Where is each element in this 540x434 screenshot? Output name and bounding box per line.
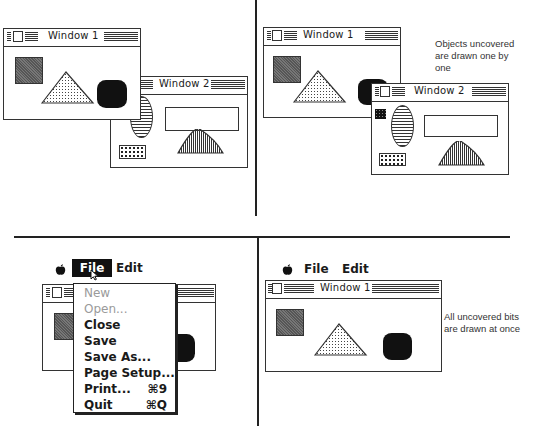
title-bar-stripes [141, 80, 153, 90]
title-bar-stripes [284, 31, 297, 41]
window-2[interactable]: Window 2 [371, 83, 509, 175]
empty-rectangle-shape [424, 115, 498, 137]
title-bar-stripes [25, 32, 38, 42]
apple-menu-icon[interactable] [55, 264, 66, 276]
close-box[interactable] [272, 30, 282, 41]
window-title: Window 2 [410, 85, 469, 96]
menu-item-open[interactable]: Open... [74, 302, 175, 318]
title-bar[interactable]: Window 2 [372, 84, 508, 102]
dotted-triangle-shape [293, 70, 347, 104]
title-bar-stripes [365, 31, 398, 41]
title-bar-stripes [375, 87, 379, 97]
title-bar-stripes [392, 87, 405, 97]
dotted-rectangle-shape [119, 145, 146, 159]
close-box[interactable] [272, 283, 282, 294]
menu-item-close[interactable]: Close [74, 318, 175, 334]
menu-edit[interactable]: Edit [342, 262, 369, 276]
menu-edit[interactable]: Edit [116, 261, 143, 275]
caption-all-uncovered: All uncovered bits are drawn at once [444, 311, 520, 335]
dark-dotted-square-shape [375, 109, 386, 119]
shortcut-print: ⌘9 [148, 382, 167, 396]
dotted-rectangle-shape [379, 153, 406, 166]
close-box[interactable] [13, 31, 23, 42]
vertical-divider-bottom [257, 236, 259, 426]
gray-square-shape [276, 309, 304, 336]
menu-item-quit[interactable]: Quit⌘Q [74, 398, 175, 414]
striped-ellipse-shape [391, 105, 414, 147]
close-box[interactable] [380, 86, 390, 97]
window-title: Window 1 [299, 29, 358, 40]
horizontal-divider [14, 236, 510, 238]
black-rounded-square-shape [383, 333, 412, 360]
shortcut-quit: ⌘Q [146, 398, 167, 412]
close-box[interactable] [52, 287, 62, 298]
window-1[interactable]: Window 1 [265, 280, 442, 372]
file-menu-dropdown[interactable]: New Open... Close Save Save As... Page S… [73, 283, 176, 413]
apple-menu-icon[interactable] [282, 264, 293, 276]
title-bar[interactable]: Window 1 [266, 281, 441, 299]
empty-rectangle-shape [165, 107, 239, 131]
title-bar[interactable]: Window 1 [4, 29, 140, 47]
dotted-triangle-shape [314, 323, 368, 357]
title-bar[interactable]: Window 1 [264, 28, 400, 46]
menu-item-save-as[interactable]: Save As... [74, 350, 175, 366]
curved-triangle-shape [177, 129, 225, 155]
vertical-divider-top [255, 0, 257, 216]
curved-triangle-shape [438, 141, 486, 167]
caption-objects-uncovered: Objects uncovered are drawn one by one [435, 38, 514, 74]
title-bar-stripes [211, 80, 245, 90]
menu-item-print[interactable]: Print...⌘9 [74, 382, 175, 398]
title-bar-stripes [372, 284, 439, 294]
title-bar-stripes [472, 87, 506, 97]
title-bar-stripes [7, 32, 11, 42]
gray-square-shape [15, 57, 43, 84]
title-bar-stripes [46, 288, 50, 298]
menu-item-page-setup[interactable]: Page Setup... [74, 366, 175, 382]
window-title: Window 2 [155, 78, 214, 89]
mouse-pointer-icon [90, 269, 99, 281]
window-title: Window 1 [44, 30, 103, 41]
title-bar-stripes [104, 32, 138, 42]
menu-file[interactable]: File [304, 262, 329, 276]
title-bar-stripes [284, 284, 314, 294]
black-rounded-square-shape [97, 80, 127, 108]
menu-item-save[interactable]: Save [74, 334, 175, 350]
window-title: Window 1 [316, 282, 375, 293]
dotted-triangle-shape [41, 71, 95, 105]
menu-item-new[interactable]: New [74, 286, 175, 302]
title-bar-stripes [267, 31, 271, 41]
